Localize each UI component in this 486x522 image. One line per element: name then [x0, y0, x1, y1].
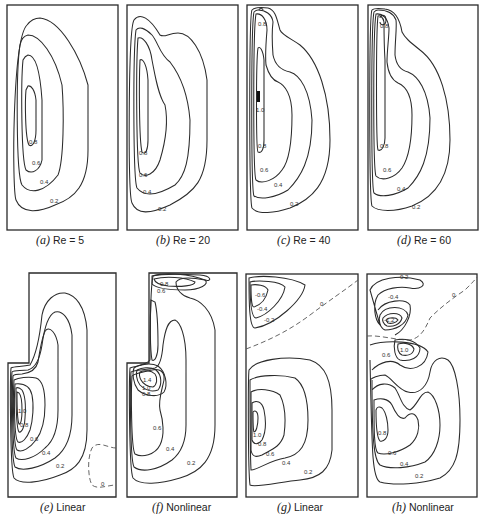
svg-text:-0.4: -0.4 — [388, 294, 399, 300]
svg-text:0.8: 0.8 — [380, 23, 389, 29]
svg-text:-0.2: -0.2 — [264, 317, 275, 323]
svg-text:0.4: 0.4 — [143, 189, 152, 195]
svg-text:0.4: 0.4 — [274, 182, 283, 188]
svg-text:0.2: 0.2 — [290, 201, 299, 207]
svg-text:0.6: 0.6 — [266, 451, 275, 457]
svg-text:0.8: 0.8 — [378, 430, 387, 436]
svg-text:1.0: 1.0 — [256, 107, 265, 113]
svg-text:0.4: 0.4 — [282, 460, 291, 466]
svg-text:0.6: 0.6 — [157, 288, 166, 294]
svg-text:0.8: 0.8 — [139, 150, 148, 156]
maximum-marker — [257, 91, 260, 102]
svg-text:0.6: 0.6 — [260, 167, 269, 173]
contour-figure: 0.8 0.6 0.4 0.2 0.8 0.6 0.4 0.2 0.8 1.0 … — [0, 0, 486, 522]
svg-text:-0.4: -0.4 — [257, 306, 268, 312]
svg-text:0.2: 0.2 — [304, 469, 313, 475]
panel-b-frame — [127, 5, 238, 230]
svg-text:1.0: 1.0 — [400, 347, 409, 353]
svg-text:0.6: 0.6 — [383, 167, 392, 173]
panel-d: 0.8 0.8 0.6 0.4 0.2 — [368, 5, 478, 230]
svg-text:0.8: 0.8 — [258, 441, 267, 447]
svg-text:0.2: 0.2 — [187, 460, 196, 466]
svg-text:0.2: 0.2 — [158, 206, 167, 212]
svg-text:0.6: 0.6 — [30, 436, 39, 442]
panel-h: -0.2 -0.4 -1.2 0 1.0 0.6 0.8 0.6 0.4 0.2 — [367, 274, 477, 497]
svg-text:0.6: 0.6 — [139, 172, 148, 178]
svg-text:0: 0 — [320, 301, 324, 307]
svg-text:0.4: 0.4 — [40, 179, 49, 185]
svg-text:0.8: 0.8 — [258, 21, 267, 27]
svg-text:-1.2: -1.2 — [384, 317, 395, 323]
svg-text:0.4: 0.4 — [42, 450, 51, 456]
panel-a: 0.8 0.6 0.4 0.2 — [7, 5, 118, 230]
svg-text:0.8: 0.8 — [160, 281, 169, 287]
panel-f: 0.8 0.6 1.4 1.0 0.8 0.6 0.4 0.2 — [127, 273, 237, 497]
svg-text:1.0: 1.0 — [253, 432, 262, 438]
svg-text:0.8: 0.8 — [29, 139, 38, 145]
svg-text:-0.2: -0.2 — [398, 274, 409, 280]
svg-text:0.6: 0.6 — [153, 425, 162, 431]
caption-b: (b) Re = 20 — [156, 233, 210, 248]
caption-a: (a) Re = 5 — [36, 233, 84, 248]
svg-text:0.2: 0.2 — [412, 204, 421, 210]
svg-text:1.0: 1.0 — [18, 408, 27, 414]
panel-b: 0.8 0.6 0.4 0.2 — [127, 5, 238, 230]
svg-text:0.2: 0.2 — [50, 198, 59, 204]
panel-a-frame — [7, 5, 118, 230]
svg-text:0.4: 0.4 — [400, 461, 409, 467]
caption-g: (g) Linear — [277, 500, 323, 515]
svg-text:0: 0 — [101, 481, 105, 487]
svg-text:0.4: 0.4 — [397, 186, 406, 192]
svg-text:0.6: 0.6 — [388, 450, 397, 456]
panel-g: -0.6 -0.4 -0.2 0 1.0 0.8 0.6 0.4 0.2 — [246, 274, 358, 497]
caption-h: (h) Nonlinear — [392, 500, 454, 515]
svg-text:0.8: 0.8 — [142, 391, 151, 397]
caption-f: (f) Nonlinear — [152, 500, 211, 515]
svg-text:0.8: 0.8 — [380, 143, 389, 149]
panel-e: 1.0 0.8 0.6 0.4 0.2 0 — [8, 273, 116, 497]
svg-text:0.6: 0.6 — [382, 352, 391, 358]
svg-text:0.4: 0.4 — [166, 446, 175, 452]
caption-d: (d) Re = 60 — [397, 233, 451, 248]
svg-text:0.8: 0.8 — [20, 422, 29, 428]
svg-text:1.4: 1.4 — [143, 377, 152, 383]
panel-c: 0.8 1.0 0.8 0.6 0.4 0.2 — [247, 5, 358, 230]
svg-text:0.2: 0.2 — [415, 473, 424, 479]
svg-text:0.2: 0.2 — [56, 463, 65, 469]
caption-c: (c) Re = 40 — [277, 233, 330, 248]
svg-text:0.6: 0.6 — [32, 160, 41, 166]
caption-e: (e) Linear — [40, 500, 85, 515]
svg-text:-0.6: -0.6 — [255, 292, 266, 298]
svg-text:0.8: 0.8 — [258, 143, 267, 149]
